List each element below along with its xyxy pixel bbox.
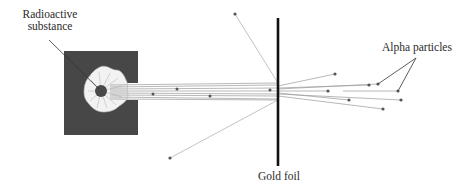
rutherford-experiment-diagram: Radioactive substance Alpha particles Go… <box>0 0 470 191</box>
alpha-particles <box>326 72 402 110</box>
radioactive-substance-label: Radioactive substance <box>18 8 82 32</box>
transmitted-paths <box>278 74 401 109</box>
gold-foil-label: Gold foil <box>258 170 300 182</box>
label-line-1: Radioactive <box>18 8 82 20</box>
label-line-2: substance <box>18 20 82 32</box>
alpha-particles-label: Alpha particles <box>382 41 452 53</box>
